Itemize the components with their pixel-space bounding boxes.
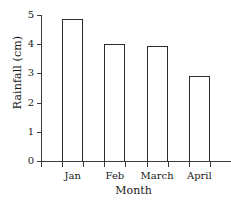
x-axis-tick [168,162,169,167]
x-axis-category-label: March [141,169,174,182]
y-axis-tick-label: 1 [28,125,34,138]
y-axis-tick-label: 2 [28,96,34,109]
x-axis-title: Month [36,184,231,197]
y-axis-tick: 1 [37,132,41,133]
y-axis-tick: 5 [37,15,41,16]
bar [147,46,168,161]
y-axis-title: Rainfall (cm) [11,8,24,138]
y-axis-tick: 3 [37,73,41,74]
y-axis-tick-label: 4 [28,37,34,50]
y-axis-tick-label: 0 [28,154,34,167]
x-axis-tick [125,162,126,167]
y-axis-line [41,15,42,162]
y-axis-tick: 4 [37,44,41,45]
bar [189,76,210,161]
bar [62,19,83,161]
x-axis-category-label: Feb [106,169,125,182]
bar-chart-figure: Rainfall (cm) 012345 JanFebMarchApril Mo… [0,0,231,204]
x-axis-tick [62,162,63,167]
x-axis-tick [41,162,42,167]
x-axis-category-label: April [187,169,212,182]
x-axis-line [41,161,231,162]
x-axis-tick [147,162,148,167]
bar [104,44,125,161]
x-axis-tick [189,162,190,167]
x-axis-tick [104,162,105,167]
x-axis-tick [210,162,211,167]
y-axis-tick-label: 3 [28,66,34,79]
y-axis-tick-label: 5 [28,8,34,21]
x-axis-category-label: Jan [64,169,80,182]
x-axis-tick [83,162,84,167]
plot-area: 012345 JanFebMarchApril [41,15,230,161]
y-axis-tick: 2 [37,103,41,104]
